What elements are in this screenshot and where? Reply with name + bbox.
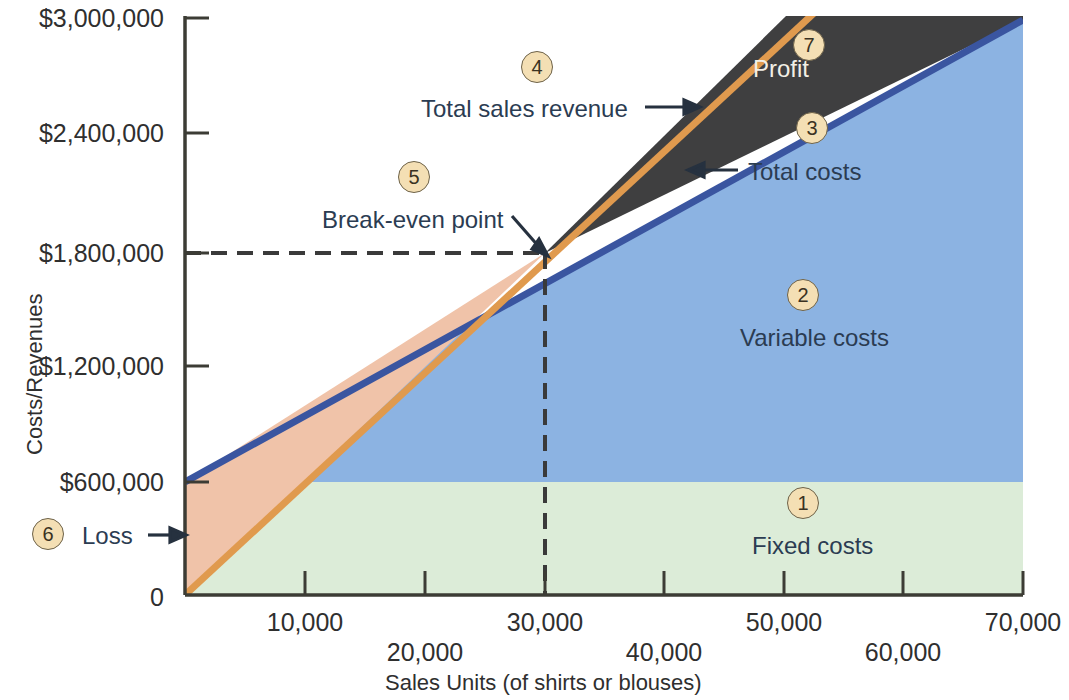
badge-1-fixed-costs: 1 [787, 487, 819, 519]
variable-costs-label: Variable costs [740, 324, 889, 352]
x-tick-label-60000: 60,000 [823, 638, 983, 667]
x-tick-label-10000: 10,000 [225, 608, 385, 637]
breakeven-chart-figure: $3,000,000 $2,400,000 $1,800,000 $1,200,… [0, 0, 1069, 700]
badge-3-total-costs: 3 [796, 112, 828, 144]
fixed-costs-label: Fixed costs [752, 532, 873, 560]
x-axis-title: Sales Units (of shirts or blouses) [385, 670, 702, 696]
plot-regions [185, 0, 1023, 595]
badge-6-loss: 6 [32, 518, 64, 550]
y-tick-label-600000: $600,000 [12, 468, 164, 497]
badge-2-variable-costs: 2 [787, 279, 819, 311]
total-sales-revenue-label: Total sales revenue [421, 95, 628, 123]
region-fixed-costs [185, 482, 1023, 595]
y-axis-ticks [185, 18, 209, 482]
badge-7-profit: 7 [793, 29, 825, 61]
badge-4-total-sales-revenue: 4 [521, 51, 553, 83]
x-tick-label-30000: 30,000 [465, 608, 625, 637]
x-tick-label-40000: 40,000 [584, 638, 744, 667]
loss-label: Loss [82, 522, 133, 550]
y-tick-label-2400000: $2,400,000 [12, 119, 164, 148]
y-tick-label-3000000: $3,000,000 [12, 4, 164, 33]
y-axis-title: Costs/Revenues [22, 294, 48, 455]
y-tick-label-1800000: $1,800,000 [12, 239, 164, 268]
badge-5-loss-area: 5 [398, 161, 430, 193]
x-tick-label-70000: 70,000 [943, 608, 1069, 637]
y-tick-label-0: 0 [12, 583, 164, 612]
breakeven-label: Break-even point [322, 206, 503, 234]
x-tick-label-20000: 20,000 [345, 638, 505, 667]
x-tick-label-50000: 50,000 [704, 608, 864, 637]
total-costs-label: Total costs [748, 158, 861, 186]
